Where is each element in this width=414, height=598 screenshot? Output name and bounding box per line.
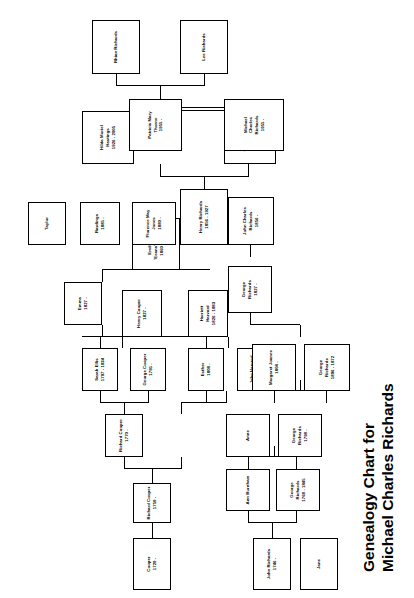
connector-line (206, 337, 207, 348)
connector-line (182, 107, 224, 108)
connector-line (300, 325, 301, 337)
connector-line (272, 523, 273, 538)
person-dates: 1768 - 1845 (301, 478, 307, 501)
person-dates: 1750 - (152, 497, 158, 509)
connector-line (250, 245, 251, 257)
person-dates: 1720 - (152, 558, 158, 570)
person-name: Florence May Jones (145, 210, 156, 238)
person-box-jane[interactable]: Jane (300, 538, 338, 590)
person-name: George Richards (241, 280, 252, 299)
connector-line (116, 74, 117, 86)
person-dates: 1827 - (83, 297, 89, 309)
connector-line (204, 177, 205, 189)
person-name: Anne (245, 430, 251, 441)
person-box-george-richards-1806[interactable]: George Richards 1806 - 1872 (304, 344, 350, 391)
person-dates: 1806 - 1872 (330, 356, 336, 379)
person-dates: 1797 - 1834 (100, 358, 106, 381)
person-dates: 1885 - (100, 217, 106, 229)
person-dates: 1826 - 1883 (211, 302, 217, 325)
person-box-taylor[interactable]: Taylor (28, 202, 66, 245)
person-dates: 1795 - (148, 363, 154, 375)
person-dates: 1827 - (253, 283, 259, 295)
person-box-richard-cooper-1750[interactable]: Richard Cooper 1750 - (133, 483, 171, 523)
connector-line (226, 391, 227, 403)
connector-line (326, 391, 327, 403)
person-dates: 1804 - (274, 361, 280, 373)
person-name: Lee Richards (201, 33, 207, 61)
person-box-george-richards-1798[interactable]: George Richards 1798 - (278, 414, 322, 457)
connector-line (181, 402, 226, 403)
person-name: Rhian Richards (113, 31, 119, 63)
person-name: George Richards (318, 358, 329, 377)
person-box-john-richards-1746[interactable]: John Richards 1746 - (253, 538, 291, 590)
person-box-rhian-richards[interactable]: Rhian Richards (92, 20, 140, 74)
connector-line (100, 391, 101, 403)
person-name: Taylor (44, 217, 50, 230)
person-box-lee-richards[interactable]: Lee Richards (180, 20, 228, 74)
person-box-henry-richards[interactable]: Henry Richards 1856 - 1927 (180, 189, 228, 245)
connector-line (102, 270, 103, 282)
connector-line (100, 337, 101, 348)
person-dates: 1955 - (158, 119, 164, 131)
connector-line (248, 164, 249, 177)
connector-line (102, 325, 103, 337)
person-box-anne[interactable]: Anne (226, 414, 270, 457)
person-box-florence-may-jones[interactable]: Florence May Jones 1880 - (132, 202, 176, 245)
person-box-sarah-ellis[interactable]: Sarah Ellis 1797 - 1834 (82, 348, 118, 391)
connector-line (100, 402, 148, 403)
genealogy-chart-canvas: Cooper 1720 - Richard Cooper 1750 - Rich… (0, 0, 414, 598)
connector-line (300, 380, 301, 391)
connector-line (274, 391, 275, 403)
connector-line (160, 86, 161, 99)
person-dates: 1955 - (260, 119, 266, 131)
person-name: Harriett Harvard (199, 305, 210, 322)
connector-line (116, 85, 204, 86)
person-box-esther[interactable]: Esther 1808 - (188, 348, 224, 391)
person-box-hilda-muriel-hastings[interactable]: Hilda Muriel Hastings 1926 - 2005 (82, 111, 134, 164)
connector-line (181, 457, 182, 469)
connector-line (181, 403, 182, 414)
connector-line (228, 337, 229, 348)
connector-line (152, 523, 153, 538)
person-box-patricia-mary-thorne[interactable]: Patricia Mary Thorne 1955 - (129, 99, 182, 151)
connector-line (296, 511, 297, 523)
connector-line (250, 324, 300, 325)
person-dates: 1770 - (124, 429, 130, 441)
person-name: George Richards (291, 426, 302, 445)
person-name: George Richards (289, 481, 300, 500)
person-box-margaret-joanes[interactable]: Margaret Joanes 1804 - (252, 344, 296, 391)
person-box-ann-burnham[interactable]: Ann Burnham (226, 469, 270, 511)
person-box-michael-charles-richards[interactable]: Michael Charles Richards 1955 - (224, 99, 284, 151)
person-name: John Charles Richards (242, 207, 253, 235)
connector-line (160, 164, 161, 177)
person-name: Ann Burnham (245, 476, 251, 505)
person-dates: 1808 - (206, 363, 212, 375)
person-box-cooper-1720[interactable]: Cooper 1720 - (133, 538, 171, 590)
person-box-henry-cooper[interactable]: Henry Cooper 1827 - (122, 290, 162, 337)
person-dates: 1880 - (157, 217, 163, 229)
person-box-harriett-harvard[interactable]: Harriett Harvard 1826 - 1883 (188, 290, 228, 337)
connector-line (248, 522, 296, 523)
connector-line (148, 391, 149, 403)
connector-line (124, 403, 125, 414)
connector-line (124, 468, 181, 469)
person-dates: 1827 - (142, 307, 148, 319)
person-dates: 1856 - 1927 (204, 205, 210, 228)
connector-line (204, 74, 205, 86)
person-dates: 1746 - (272, 558, 278, 570)
connector-line (248, 457, 249, 469)
person-box-john-charles-richards-1856[interactable]: John Charles Richards 1856 - (228, 197, 274, 245)
person-dates: 1856 - (254, 215, 260, 227)
person-box-rawlings[interactable]: Rawlings 1885 - (80, 202, 120, 245)
person-name: Patricia Mary Thorne (147, 111, 158, 138)
person-box-george-cooper[interactable]: George Cooper 1795 - (130, 348, 166, 391)
connector-line (250, 313, 251, 325)
person-box-emma[interactable]: Emma 1827 - (64, 282, 102, 325)
connector-line (296, 457, 297, 469)
chart-title: Genealogy Chart for Michael Charles Rich… (360, 383, 398, 572)
person-box-george-richards-1827[interactable]: George Richards 1827 - (228, 266, 272, 313)
person-box-george-richards-1768[interactable]: George Richards 1768 - 1845 (276, 469, 320, 511)
person-box-richard-cooper-1770[interactable]: Richard Cooper 1770 - (105, 414, 143, 457)
person-dates: 1926 - 2005 (111, 126, 117, 149)
person-name: Jane (316, 559, 322, 569)
